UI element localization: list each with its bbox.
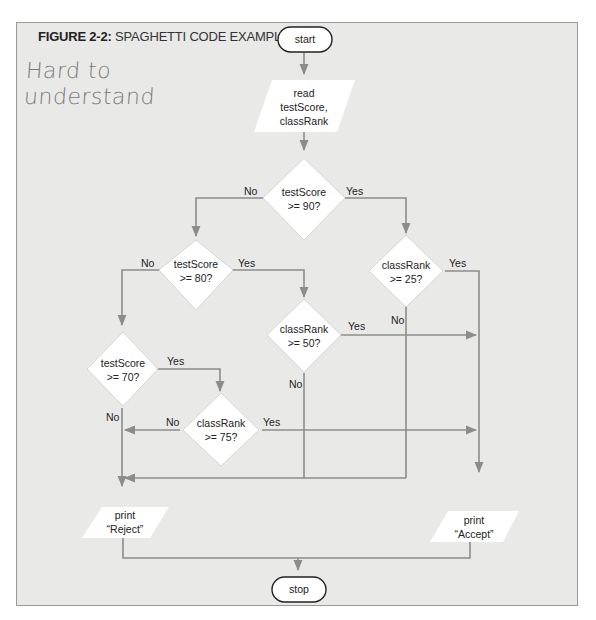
print-reject-node: print “Reject” xyxy=(82,507,169,538)
decision-testscore-80: testScore >= 80? xyxy=(159,240,233,310)
svg-text:print: print xyxy=(115,509,136,521)
svg-text:read: read xyxy=(293,87,314,99)
decision-classrank-75: classRank >= 75? xyxy=(183,393,259,466)
svg-text:“Reject”: “Reject” xyxy=(107,523,144,535)
decision-classrank-25: classRank >= 25? xyxy=(369,235,443,307)
decision-testscore-70: testScore >= 70? xyxy=(87,332,158,406)
svg-text:testScore: testScore xyxy=(282,186,327,198)
svg-text:testScore: testScore xyxy=(101,357,146,369)
label-no-cr50: No xyxy=(289,378,303,390)
svg-text:classRank: classRank xyxy=(280,323,329,335)
svg-text:>= 70?: >= 70? xyxy=(107,371,140,383)
label-yes-ts90: Yes xyxy=(346,185,363,197)
decision-classrank-50: classRank >= 50? xyxy=(267,299,341,372)
stop-terminal: stop xyxy=(272,577,326,602)
svg-text:>= 50?: >= 50? xyxy=(288,337,321,349)
label-yes-ts80: Yes xyxy=(238,257,255,269)
label-no-ts80: No xyxy=(141,257,155,269)
svg-text:“Accept”: “Accept” xyxy=(454,528,494,540)
svg-text:classRank: classRank xyxy=(382,259,431,271)
svg-text:testScore: testScore xyxy=(174,258,219,270)
label-no-ts90: No xyxy=(244,185,258,197)
label-no-ts70: No xyxy=(106,411,120,423)
svg-text:>= 90?: >= 90? xyxy=(288,200,321,212)
flowchart: start read testScore, classRank testScor… xyxy=(0,0,596,620)
svg-text:classRank: classRank xyxy=(280,115,329,127)
svg-text:stop: stop xyxy=(289,583,309,595)
label-yes-cr75: Yes xyxy=(263,416,280,428)
label-yes-ts70: Yes xyxy=(167,355,184,367)
svg-text:print: print xyxy=(464,514,485,526)
svg-text:>= 25?: >= 25? xyxy=(390,273,423,285)
read-input-node: read testScore, classRank xyxy=(254,80,355,132)
label-yes-cr25: Yes xyxy=(449,257,466,269)
label-no-cr75: No xyxy=(166,416,180,428)
start-terminal: start xyxy=(278,27,332,52)
svg-text:start: start xyxy=(295,33,316,45)
decision-testscore-90: testScore >= 90? xyxy=(263,158,345,240)
svg-text:testScore,: testScore, xyxy=(280,101,327,113)
label-yes-cr50: Yes xyxy=(348,320,365,332)
print-accept-node: print “Accept” xyxy=(430,511,519,542)
svg-text:>= 75?: >= 75? xyxy=(205,431,238,443)
svg-text:classRank: classRank xyxy=(197,417,246,429)
svg-text:>= 80?: >= 80? xyxy=(180,272,213,284)
label-no-cr25: No xyxy=(391,314,405,326)
